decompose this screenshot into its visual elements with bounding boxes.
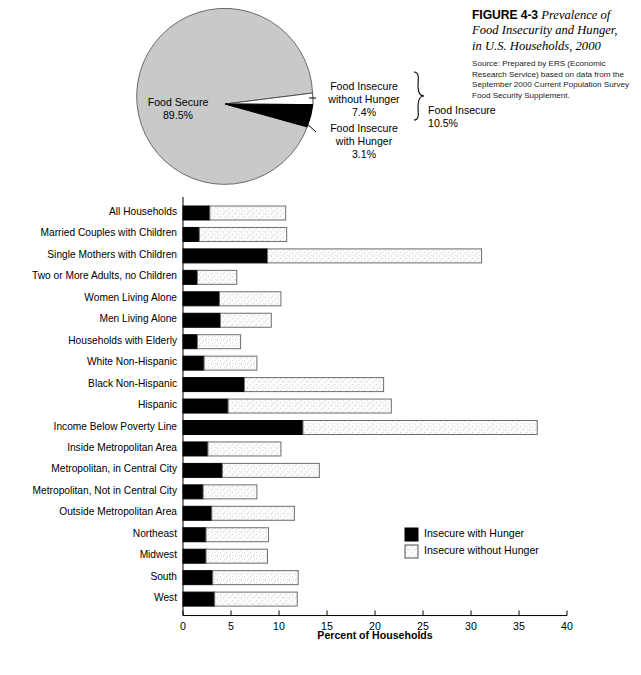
category-label: Black Non-Hispanic [88,378,177,389]
bar-segment-without-hunger [267,249,481,263]
bar-segment-without-hunger [303,421,537,435]
figure-source-note: Source: Prepared by ERS (Economic Resear… [472,59,635,101]
figure-title-line3: in U.S. Households, 2000 [472,39,601,53]
legend-swatch-with-hunger [405,528,418,541]
pie-label-with-hunger-value: 3.1% [352,148,376,160]
pie-label-insecure-with-hunger: Food Insecure with Hunger 3.1% [318,122,410,161]
pie-label-without-hunger-value: 7.4% [352,106,376,118]
category-label: Midwest [140,549,177,560]
bar-segment-without-hunger [199,227,286,241]
bar-chart: All HouseholdsMarried Couples with Child… [0,195,641,675]
pie-label-food-secure-name: Food Secure [148,96,209,108]
bar-segment-with-hunger [183,249,267,263]
bar-segment-with-hunger [183,528,206,542]
category-label: Outside Metropolitan Area [59,506,177,517]
bar-segment-with-hunger [183,463,222,477]
pie-label-food-secure: Food Secure 89.5% [138,96,218,122]
bar-segment-without-hunger [220,313,271,327]
figure-page: FIGURE 4-3 Prevalence of Food Insecurity… [0,0,641,675]
category-label: Single Mothers with Children [47,249,177,260]
x-axis-title: Percent of Households [183,629,567,641]
bar-segment-without-hunger [244,378,383,392]
bar-segment-without-hunger [206,549,267,563]
bar-segment-with-hunger [183,378,244,392]
figure-number: FIGURE 4-3 [472,8,538,22]
bar-segment-without-hunger [197,270,236,284]
figure-caption-title: FIGURE 4-3 Prevalence of Food Insecurity… [472,8,635,54]
category-label: Metropolitan, Not in Central City [33,485,177,496]
bar-segment-without-hunger [215,592,298,606]
pie-label-without-hunger-l1: Food Insecure [330,80,398,92]
figure-title-line2: Food Insecurity and Hunger, [472,23,618,37]
pie-label-with-hunger-l2: with Hunger [336,135,393,147]
bar-chart-svg [0,195,641,675]
bar-segment-with-hunger [183,442,208,456]
pie-label-insecure-without-hunger: Food Insecure without Hunger 7.4% [318,80,410,119]
bar-segment-without-hunger [222,463,319,477]
bar-segment-with-hunger [183,356,204,370]
bar-segment-with-hunger [183,399,228,413]
pie-chart: Food Secure 89.5% Food Insecure without … [0,0,470,195]
bar-segment-without-hunger [228,399,391,413]
category-label: West [154,592,177,603]
figure-caption-block: FIGURE 4-3 Prevalence of Food Insecurity… [472,8,635,102]
category-label: Households with Elderly [68,335,177,346]
legend-swatch-without-hunger [405,545,418,558]
category-label: Two or More Adults, no Children [32,270,177,281]
figure-title-line1: Prevalence of [538,8,610,22]
category-label: Women Living Alone [84,292,177,303]
category-label: Income Below Poverty Line [54,421,177,432]
bar-segment-with-hunger [183,206,210,220]
category-label: Hispanic [138,399,177,410]
bar-segment-without-hunger [208,442,281,456]
bar-segment-without-hunger [212,506,295,520]
category-label: Inside Metropolitan Area [67,442,177,453]
pie-label-food-insecure-total: Food Insecure 10.5% [428,104,498,130]
bar-segment-with-hunger [183,227,199,241]
category-label: White Non-Hispanic [87,356,177,367]
pie-label-without-hunger-l2: without Hunger [328,93,399,105]
bar-segment-without-hunger [210,206,286,220]
bar-segment-with-hunger [183,270,197,284]
bar-segment-with-hunger [183,292,219,306]
legend-label-without-hunger: Insecure without Hunger [424,544,539,556]
category-label: Northeast [133,528,177,539]
bar-segment-with-hunger [183,313,220,327]
bar-segment-with-hunger [183,421,303,435]
bar-segment-without-hunger [206,528,268,542]
pie-label-with-hunger-l1: Food Insecure [330,122,398,134]
pie-total-label: Food Insecure [428,104,496,116]
bar-segment-without-hunger [204,356,257,370]
category-label: Metropolitan, in Central City [51,463,177,474]
category-label: Married Couples with Children [41,227,177,238]
category-label: South [150,571,177,582]
bar-segment-without-hunger [213,571,298,585]
bar-segment-without-hunger [219,292,280,306]
bar-segment-with-hunger [183,485,203,499]
category-label: All Households [109,206,177,217]
bar-segment-with-hunger [183,592,215,606]
bar-segment-without-hunger [197,335,240,349]
pie-label-food-secure-value: 89.5% [163,109,193,121]
pie-brace [414,72,424,120]
bar-segment-without-hunger [203,485,257,499]
bar-segment-with-hunger [183,571,213,585]
bar-segment-with-hunger [183,335,197,349]
category-label: Men Living Alone [99,313,177,324]
pie-total-value: 10.5% [428,117,458,129]
bar-segment-with-hunger [183,549,206,563]
bar-segment-with-hunger [183,506,212,520]
legend-label-with-hunger: Insecure with Hunger [424,527,524,539]
